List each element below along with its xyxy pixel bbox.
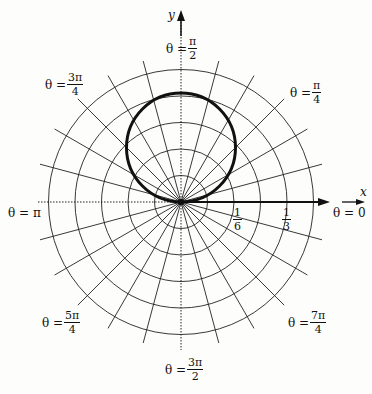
- polar-axis-arrowhead: [318, 198, 330, 206]
- x-axis-arrowhead: [356, 199, 365, 205]
- grid-radial-line: [108, 202, 181, 328]
- grid-radial-line: [181, 202, 254, 328]
- x-axis-label: x: [360, 185, 367, 199]
- frac-den: 2: [192, 370, 199, 382]
- grid-radial-line: [78, 99, 181, 202]
- grid-radial-line: [55, 202, 181, 275]
- label-theta-pi: θ = π: [8, 207, 41, 219]
- grid-radial-line: [143, 61, 181, 202]
- grid-radial-line: [181, 129, 307, 202]
- frac-num: π: [188, 36, 197, 49]
- theta-eq: θ =: [165, 364, 186, 376]
- frac-den: 4: [69, 323, 76, 335]
- frac-den: 2: [189, 49, 196, 61]
- y-axis-label: y: [168, 8, 175, 22]
- frac-num: π: [312, 80, 321, 93]
- frac-num: 3π: [187, 357, 203, 370]
- grid-radial-line: [181, 202, 219, 343]
- label-theta-5pi-over-4: θ = 5π4: [42, 310, 80, 335]
- tick-label-one-third: 13: [281, 207, 291, 232]
- y-axis-arrowhead: [177, 10, 185, 21]
- theta-eq: θ =: [290, 87, 311, 99]
- pole: [178, 199, 184, 205]
- grid-radial-line: [143, 202, 181, 343]
- theta-eq-pi: θ = π: [8, 207, 41, 219]
- label-theta-3pi-over-4: θ = 3π4: [45, 72, 83, 97]
- grid-radial-line: [181, 61, 219, 202]
- frac-num: 5π: [64, 310, 80, 323]
- grid-radial-line: [181, 99, 284, 202]
- theta-eq: θ =: [45, 79, 66, 91]
- label-theta-0: θ = 0: [333, 207, 366, 219]
- frac-den: 6: [234, 220, 241, 232]
- theta-eq: θ =: [288, 317, 309, 329]
- frac-num: 1: [282, 207, 291, 220]
- theta-eq-0: θ = 0: [333, 207, 366, 219]
- frac-den: 3: [283, 220, 290, 232]
- frac-den: 4: [315, 323, 322, 335]
- theta-eq: θ =: [42, 317, 63, 329]
- grid-radial-line: [40, 202, 181, 240]
- label-theta-pi-over-4: θ = π4: [290, 80, 321, 105]
- grid-radial-line: [181, 202, 322, 240]
- grid-radial-line: [78, 202, 181, 305]
- grid-radial-line: [55, 129, 181, 202]
- frac-num: 1: [233, 207, 242, 220]
- frac-den: 4: [72, 85, 79, 97]
- frac-den: 4: [313, 93, 320, 105]
- tick-label-one-sixth: 16: [232, 207, 242, 232]
- frac-num: 3π: [67, 72, 83, 85]
- label-theta-7pi-over-4: θ = 7π4: [288, 310, 326, 335]
- frac-num: 7π: [310, 310, 326, 323]
- label-theta-pi-over-2: θ = π2: [166, 36, 197, 61]
- theta-eq: θ =: [166, 43, 187, 55]
- label-theta-3pi-over-2: θ = 3π2: [165, 357, 203, 382]
